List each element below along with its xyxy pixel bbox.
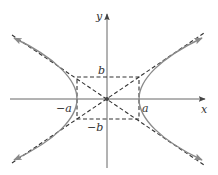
b-label: b (98, 64, 105, 77)
hyperbola-right-branch-upper (139, 38, 202, 99)
x-axis-label: x (201, 103, 208, 116)
hyperbola-left-branch-upper (14, 38, 77, 99)
a-label: a (142, 102, 149, 115)
hyperbola-diagram: y x b −b −a a (0, 0, 218, 175)
origin-point (105, 97, 109, 101)
neg-a-label: −a (56, 102, 72, 115)
y-axis-label: y (95, 10, 103, 23)
neg-b-label: −b (87, 121, 103, 134)
